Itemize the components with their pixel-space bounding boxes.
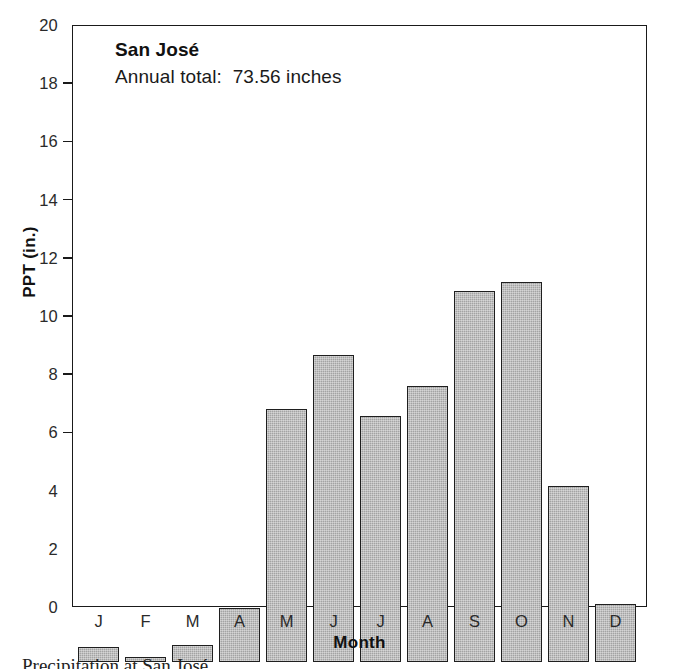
x-tick-label-jun: J <box>313 609 354 633</box>
x-tick-label-feb: F <box>125 609 166 633</box>
bar-oct <box>501 282 542 662</box>
x-tick-label-mar: M <box>172 609 213 633</box>
chart-annotation: San José Annual total: 73.56 inches <box>115 37 535 90</box>
figure-caption-fragment: Precipitation at San José <box>22 655 482 669</box>
x-tick-label-jan: J <box>78 609 119 633</box>
station-name-label: San José <box>115 37 535 63</box>
x-tick-label-sep: S <box>454 609 495 633</box>
x-tick-label-oct: O <box>501 609 542 633</box>
x-tick-label-may: M <box>266 609 307 633</box>
x-tick-label-dec: D <box>595 609 636 633</box>
x-tick-label-apr: A <box>219 609 260 633</box>
annual-total-label: Annual total: 73.56 inches <box>115 63 535 90</box>
x-tick-label-aug: A <box>407 609 448 633</box>
x-axis-title: Month <box>72 633 647 653</box>
x-tick-label-nov: N <box>548 609 589 633</box>
x-tick-label-jul: J <box>360 609 401 633</box>
bar-sep <box>454 291 495 662</box>
